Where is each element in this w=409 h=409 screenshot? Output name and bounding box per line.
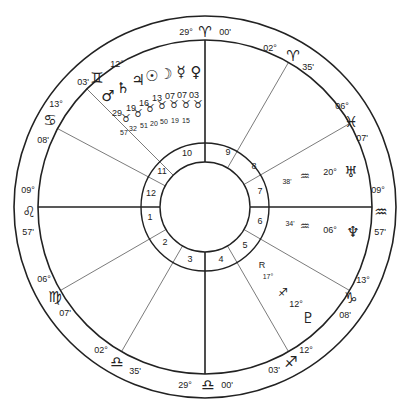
cusp-degree: 09° <box>21 185 35 195</box>
planet-sign-icon: ♒ <box>300 170 310 183</box>
planet-minute: 38' <box>282 178 291 185</box>
venus-icon: ♀ <box>191 63 202 81</box>
planet-minute: 34' <box>285 220 294 227</box>
house-number: 11 <box>157 166 166 176</box>
cusp-minute: 08' <box>37 135 49 145</box>
zodiac-sign-icon: ♐ <box>284 353 297 371</box>
planet-minute: 51 <box>140 122 148 129</box>
neptune-icon: ♆ <box>346 223 359 241</box>
cusp-minute: 57' <box>22 227 34 237</box>
cusp-minute: 57' <box>374 227 386 237</box>
cusp-label-12: ♋13°08' <box>37 99 63 145</box>
planet-degree: 12° <box>289 299 303 309</box>
planet-minute: 32 <box>129 125 137 132</box>
house-number: 8 <box>251 161 256 171</box>
planet-minute: 17° <box>263 273 274 280</box>
zodiac-sign-icon: ♈ <box>198 23 211 41</box>
zodiac-sign-icon: ♒ <box>374 203 387 221</box>
house-cusp-lines <box>38 40 372 374</box>
cusp-label-ASC: ♌09°57' <box>21 185 36 237</box>
jupiter-icon: ♃ <box>131 71 144 89</box>
planet-uranus: ♅20°♒38' <box>282 163 357 185</box>
saturn-icon: ♄ <box>116 79 129 97</box>
cusp-label-MC: ♈29°00' <box>179 23 231 41</box>
house-number: 12 <box>146 188 156 198</box>
zodiac-sign-icon: ♈ <box>286 47 299 65</box>
planet-sign-icon: ♉ <box>193 98 203 111</box>
zodiac-sign-icon: ♋ <box>43 111 56 129</box>
cusp-label-IC: ♎29°00' <box>178 376 233 394</box>
sun-icon: ☉ <box>145 67 158 85</box>
cusp-line-house-9 <box>228 62 289 168</box>
cusp-minute: 08' <box>339 310 351 320</box>
house-number: 7 <box>257 186 262 196</box>
cusp-line-house-12 <box>58 129 166 186</box>
cusp-degree: 06° <box>37 274 51 284</box>
house-number: 1 <box>147 212 152 222</box>
planet-placements: ♂29♉57♄19♉32♃16♉51☉13♉20☽07♉50☿07♉19♀03♉… <box>101 63 359 327</box>
planet-minute: 57 <box>120 129 128 136</box>
mars-icon: ♂ <box>101 87 114 105</box>
moon-icon: ☽ <box>159 65 172 83</box>
planet-sign-icon: ♒ <box>300 220 310 233</box>
planet-neptune: ♆06°♒34' <box>285 220 359 241</box>
house-number: 5 <box>242 240 247 250</box>
cusp-minute: 00' <box>221 380 233 390</box>
planet-degree: 06° <box>323 225 337 235</box>
cusp-label-8: ♓06°07' <box>335 101 368 143</box>
cusp-degree: 12° <box>110 59 124 69</box>
house-number: 3 <box>187 254 192 264</box>
cusp-label-9: ♈02°35' <box>263 43 314 72</box>
planet-degree: 20° <box>323 167 337 177</box>
cusp-minute: 03' <box>268 365 280 375</box>
house-number: 4 <box>218 254 223 264</box>
planet-sign-icon: ♉ <box>121 112 131 125</box>
planet-minute: 15 <box>182 117 190 124</box>
uranus-icon: ♅ <box>344 163 357 181</box>
house-number: 2 <box>162 237 167 247</box>
house-numbers: 123456789101112 <box>146 147 263 264</box>
house-number: 9 <box>225 147 230 157</box>
zodiac-sign-icon: ♎ <box>201 376 214 394</box>
planet-sign-icon: ♉ <box>133 107 143 120</box>
planet-sign-icon: ♉ <box>145 102 155 115</box>
cusp-degree: 06° <box>335 101 349 111</box>
house-number: 10 <box>182 148 192 158</box>
cusp-degree: 09° <box>371 185 385 195</box>
natal-chart-wheel: 123456789101112 ♈29°00'♈02°35'♓06°07'♒09… <box>0 0 409 409</box>
zodiac-sign-icon: ♎ <box>110 353 123 371</box>
cusp-minute: 07' <box>59 308 71 318</box>
house-inner-ring <box>160 162 250 252</box>
cusp-line-house-2 <box>60 230 166 291</box>
cusp-minute: 35' <box>129 366 141 376</box>
planet-pluto: ♇12°♐17°R <box>259 260 315 327</box>
cusp-degree: 13° <box>356 275 370 285</box>
cusp-degree: 12° <box>299 345 313 355</box>
cusp-degree: 29° <box>178 380 192 390</box>
cusp-degree: 02° <box>263 43 277 53</box>
zodiac-sign-icon: ♓ <box>344 113 357 131</box>
cusp-minute: 00' <box>219 27 231 37</box>
cusp-label-DSC: ♒09°57' <box>371 185 388 237</box>
planet-minute: 20 <box>150 120 158 127</box>
cusp-degree: 29° <box>179 27 193 37</box>
house-number: 6 <box>257 216 262 226</box>
zodiac-sign-icon: ♊ <box>90 69 103 87</box>
zodiac-sign-icon: ♍ <box>48 288 61 306</box>
retrograde-marker: R <box>259 260 266 270</box>
cusp-label-2: ♍06°07' <box>37 274 71 318</box>
mercury-icon: ☿ <box>176 63 185 81</box>
pluto-icon: ♇ <box>301 309 314 327</box>
cusp-degree: 02° <box>94 345 108 355</box>
cusp-minute: 03' <box>77 77 89 87</box>
cusp-degree: 13° <box>49 99 63 109</box>
planet-sign-icon: ♐ <box>278 286 288 299</box>
cusp-line-house-3 <box>122 246 183 352</box>
cusp-minute: 07' <box>356 133 368 143</box>
zodiac-sign-icon: ♌ <box>22 203 35 221</box>
zodiac-sign-icon: ♑ <box>344 289 357 307</box>
planet-minute: 19 <box>171 117 179 124</box>
cusp-minute: 35' <box>302 62 314 72</box>
planet-minute: 50 <box>160 118 168 125</box>
